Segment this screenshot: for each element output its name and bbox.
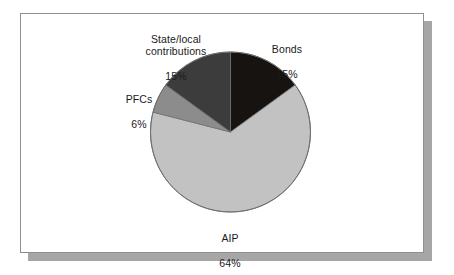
figure-root: State/local contributions 15% Bonds 15% …	[0, 0, 454, 275]
slice-label-pfcs-value: 6%	[104, 118, 174, 131]
slice-label-pfcs-name: PFCs	[104, 93, 174, 106]
slice-label-aip-value: 64%	[188, 257, 272, 270]
slice-label-bonds-name: Bonds	[245, 43, 329, 56]
slice-label-bonds-value: 15%	[245, 68, 329, 81]
slice-label-pfcs: PFCs 6%	[104, 80, 174, 143]
slice-label-state-local-name: State/local contributions	[114, 33, 238, 58]
slice-label-aip-name: AIP	[188, 232, 272, 245]
slice-label-aip: AIP 64%	[188, 219, 272, 275]
slice-label-bonds: Bonds 15%	[245, 30, 329, 93]
